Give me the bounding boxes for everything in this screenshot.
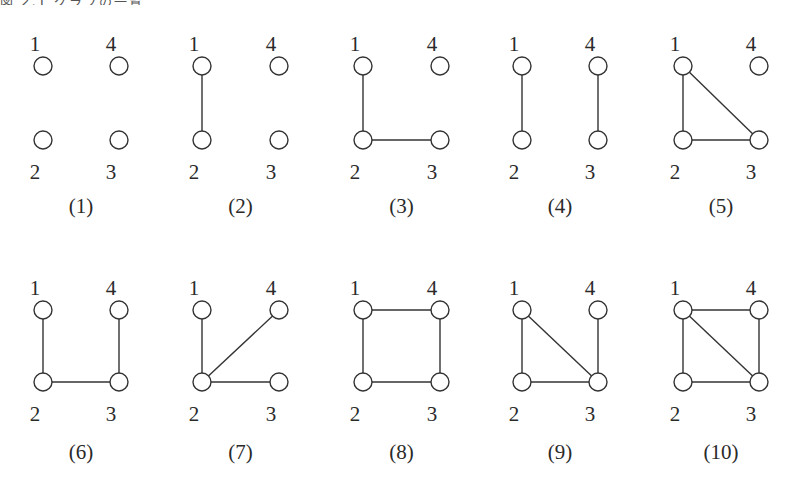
node-label-1: 1: [670, 32, 681, 56]
node-label-2: 2: [189, 160, 200, 184]
node-1: [513, 57, 531, 75]
node-4: [110, 301, 128, 319]
node-label-3: 3: [106, 160, 117, 184]
node-1: [34, 301, 52, 319]
node-label-3: 3: [266, 402, 277, 426]
graph-4: 1234(4): [509, 32, 607, 218]
node-1: [674, 301, 692, 319]
node-label-2: 2: [189, 402, 200, 426]
graph-figure: 1234(1)1234(2)1234(3)1234(4)1234(5)1234(…: [0, 0, 796, 496]
graph-caption: (3): [389, 194, 414, 218]
graph-caption: (6): [69, 440, 94, 464]
node-3: [431, 131, 449, 149]
node-2: [34, 131, 52, 149]
node-label-3: 3: [427, 402, 438, 426]
node-label-1: 1: [350, 32, 361, 56]
node-1: [193, 301, 211, 319]
node-label-3: 3: [746, 160, 757, 184]
node-3: [270, 373, 288, 391]
node-2: [513, 373, 531, 391]
graph-6: 1234(6): [30, 276, 128, 464]
graph-caption: (4): [548, 194, 573, 218]
node-3: [750, 373, 768, 391]
node-4: [750, 301, 768, 319]
graph-9: 1234(9): [509, 276, 607, 464]
node-label-3: 3: [746, 402, 757, 426]
node-label-4: 4: [746, 276, 757, 300]
graph-caption: (7): [228, 440, 253, 464]
node-label-1: 1: [189, 276, 200, 300]
edge-1-3: [522, 310, 598, 382]
node-label-4: 4: [106, 276, 117, 300]
node-label-4: 4: [585, 276, 596, 300]
node-3: [431, 373, 449, 391]
node-4: [270, 301, 288, 319]
node-label-2: 2: [509, 402, 520, 426]
node-2: [354, 131, 372, 149]
node-2: [193, 373, 211, 391]
edge-1-3: [683, 66, 759, 140]
node-1: [354, 57, 372, 75]
node-2: [513, 131, 531, 149]
graph-caption: (10): [704, 440, 739, 464]
node-2: [193, 131, 211, 149]
node-label-4: 4: [427, 276, 438, 300]
node-label-3: 3: [427, 160, 438, 184]
node-3: [110, 373, 128, 391]
node-4: [431, 301, 449, 319]
node-label-2: 2: [350, 402, 361, 426]
node-4: [589, 301, 607, 319]
node-label-4: 4: [266, 32, 277, 56]
node-2: [34, 373, 52, 391]
node-label-1: 1: [30, 32, 41, 56]
node-label-3: 3: [585, 160, 596, 184]
graph-5: 1234(5): [670, 32, 768, 218]
graph-7: 1234(7): [189, 276, 288, 464]
graph-caption: (5): [709, 194, 734, 218]
graph-caption: (9): [548, 440, 573, 464]
node-label-1: 1: [30, 276, 41, 300]
node-label-1: 1: [509, 32, 520, 56]
node-2: [674, 373, 692, 391]
node-3: [270, 131, 288, 149]
node-label-1: 1: [350, 276, 361, 300]
node-3: [750, 131, 768, 149]
node-4: [589, 57, 607, 75]
graph-caption: (1): [69, 194, 94, 218]
node-label-2: 2: [30, 402, 41, 426]
node-label-2: 2: [30, 160, 41, 184]
graph-10: 1234(10): [670, 276, 768, 464]
graph-caption: (8): [389, 440, 414, 464]
node-4: [750, 57, 768, 75]
graph-8: 1234(8): [350, 276, 449, 464]
node-label-1: 1: [509, 276, 520, 300]
node-label-2: 2: [509, 160, 520, 184]
graph-caption: (2): [228, 194, 253, 218]
node-label-3: 3: [585, 402, 596, 426]
node-1: [354, 301, 372, 319]
graph-1: 1234(1): [30, 32, 128, 218]
node-label-3: 3: [106, 402, 117, 426]
node-label-4: 4: [266, 276, 277, 300]
node-label-4: 4: [106, 32, 117, 56]
node-2: [674, 131, 692, 149]
node-1: [34, 57, 52, 75]
node-2: [354, 373, 372, 391]
node-1: [674, 57, 692, 75]
node-3: [589, 373, 607, 391]
node-3: [110, 131, 128, 149]
node-label-4: 4: [746, 32, 757, 56]
node-1: [513, 301, 531, 319]
node-label-2: 2: [670, 160, 681, 184]
node-label-2: 2: [670, 402, 681, 426]
node-label-1: 1: [189, 32, 200, 56]
node-label-4: 4: [585, 32, 596, 56]
node-label-1: 1: [670, 276, 681, 300]
node-label-4: 4: [427, 32, 438, 56]
edge-2-4: [202, 310, 279, 382]
node-1: [193, 57, 211, 75]
graph-3: 1234(3): [350, 32, 449, 218]
node-label-2: 2: [350, 160, 361, 184]
node-4: [270, 57, 288, 75]
node-3: [589, 131, 607, 149]
